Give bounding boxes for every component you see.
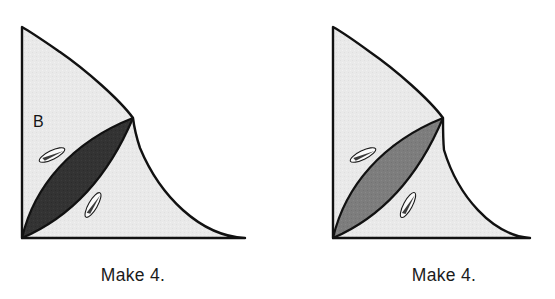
quilt-block-diagram-sheet: B Make 4. Make 4. <box>0 0 555 299</box>
left-piece-label-b: B <box>33 113 44 130</box>
right-caption: Make 4. <box>412 265 476 285</box>
left-caption: Make 4. <box>101 265 165 285</box>
figure-right: Make 4. <box>333 27 530 285</box>
figure-left: B Make 4. <box>22 27 245 285</box>
